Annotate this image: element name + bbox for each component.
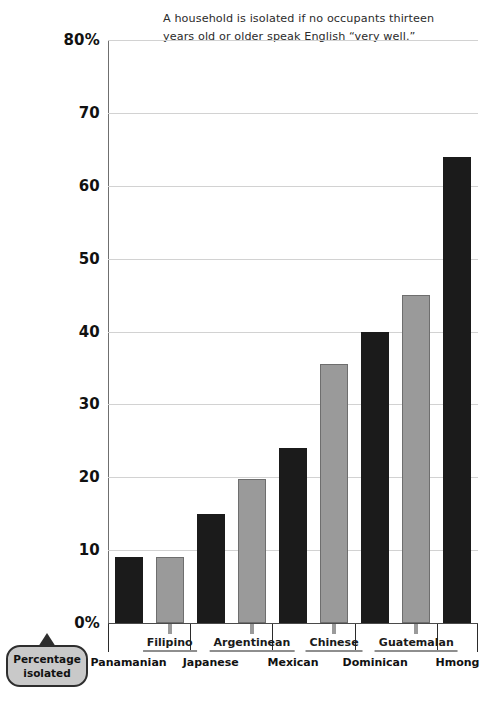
- bar-japanese: [197, 514, 225, 623]
- category-tick-filipino: [168, 624, 172, 634]
- bar-mexican: [279, 448, 307, 623]
- callout-line-2: isolated: [23, 666, 70, 680]
- category-tick-chinese: [332, 624, 336, 634]
- bar-panamanian: [115, 557, 143, 623]
- y-tick-label-50: 50: [30, 250, 100, 268]
- y-tick-label-30: 30: [30, 395, 100, 413]
- category-separator: [108, 624, 109, 652]
- category-label-mexican: Mexican: [267, 656, 318, 669]
- category-label-chinese: Chinese: [306, 636, 363, 652]
- category-label-japanese: Japanese: [183, 656, 239, 669]
- y-tick-label-60: 60: [30, 177, 100, 195]
- category-label-argentinean: Argentinean: [210, 636, 295, 652]
- y-axis-tick-labels: 80%706050403020100%: [28, 40, 100, 624]
- category-label-dominican: Dominican: [343, 656, 408, 669]
- category-label-panamanian: Panamanian: [90, 656, 166, 669]
- bar-filipino: [156, 557, 184, 623]
- y-tick-label-70: 70: [30, 104, 100, 122]
- category-axis: PanamanianFilipinoJapaneseArgentineanMex…: [108, 624, 478, 684]
- category-label-filipino: Filipino: [143, 636, 197, 652]
- category-tick-guatemalan: [414, 624, 418, 634]
- category-label-guatemalan: Guatemalan: [375, 636, 458, 652]
- y-tick-label-40: 40: [30, 323, 100, 341]
- y-tick-label-20: 20: [30, 468, 100, 486]
- bar-dominican: [361, 332, 389, 624]
- y-tick-label-0: 0%: [30, 614, 100, 632]
- callout-line-1: Percentage: [13, 652, 81, 666]
- category-tick-argentinean: [250, 624, 254, 634]
- category-label-hmong: Hmong: [435, 656, 479, 669]
- y-tick-label-80: 80%: [30, 31, 100, 49]
- y-tick-label-10: 10: [30, 541, 100, 559]
- bar-series: [108, 40, 478, 623]
- category-separator: [477, 624, 478, 652]
- bar-chinese: [320, 364, 348, 623]
- bar-guatemalan: [402, 295, 430, 623]
- subtitle-line-1: A household is isolated if no occupants …: [163, 10, 463, 28]
- bar-argentinean: [238, 479, 266, 623]
- bar-hmong: [443, 157, 471, 623]
- percentage-isolated-callout: Percentage isolated: [6, 645, 88, 687]
